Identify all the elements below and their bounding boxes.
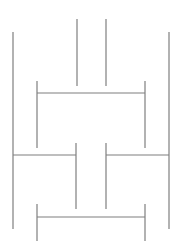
line-diagram	[0, 0, 182, 245]
